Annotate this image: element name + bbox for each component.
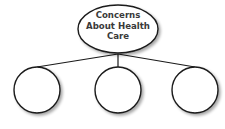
- child-circle-left: [14, 67, 60, 113]
- root-label-line-3: Care: [78, 31, 158, 42]
- root-label: Concerns About Health Care: [78, 10, 158, 42]
- connector-left: [37, 54, 118, 67]
- connector-right: [118, 54, 195, 67]
- child-circle-middle: [95, 67, 141, 113]
- root-label-line-1: Concerns: [78, 10, 158, 21]
- root-label-line-2: About Health: [78, 21, 158, 32]
- child-circle-right: [172, 67, 218, 113]
- connector-lines: [37, 54, 195, 67]
- concept-web-diagram: Concerns About Health Care: [0, 0, 225, 129]
